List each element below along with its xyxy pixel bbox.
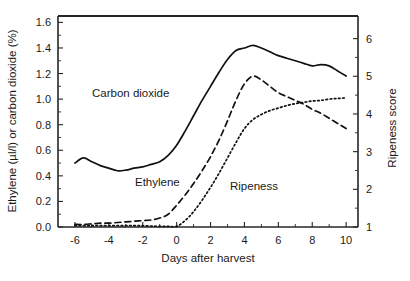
x-ticklabel: 6	[275, 234, 281, 246]
y-ticklabel-left: 1.6	[36, 16, 51, 28]
y-axis-right-ticks: 123456	[353, 33, 372, 233]
y-ticklabel-left: 0.2	[36, 195, 51, 207]
chart-figure: 0.00.20.40.60.81.01.21.41.6 123456 -6-4-…	[0, 0, 410, 281]
plot-frame	[58, 16, 358, 227]
y-ticklabel-right: 6	[366, 33, 372, 45]
x-axis-title: Days after harvest	[161, 252, 255, 264]
carbon-dioxide-ethylene-ripeness-line-chart: 0.00.20.40.60.81.01.21.41.6 123456 -6-4-…	[0, 0, 410, 281]
series-line-carbon-dioxide	[75, 45, 346, 170]
chart-series-group	[75, 45, 346, 226]
y-axis-left-title: Ethylene (µl/l) or carbon dioxide (%)	[6, 29, 18, 212]
y-ticklabel-left: 1.2	[36, 68, 51, 80]
y-ticklabel-right: 3	[366, 146, 372, 158]
y-ticklabel-right: 5	[366, 70, 372, 82]
series-line-ripeness	[75, 98, 346, 227]
x-ticklabel: 8	[309, 234, 315, 246]
y-axis-right-title: Ripeness score	[386, 88, 398, 167]
y-ticklabel-right: 4	[366, 108, 372, 120]
x-ticklabel: -6	[70, 234, 80, 246]
x-ticklabel: 10	[340, 234, 352, 246]
y-ticklabel-right: 2	[366, 183, 372, 195]
y-ticklabel-left: 1.0	[36, 93, 51, 105]
series-label-ethylene: Ethylene	[135, 176, 180, 188]
x-ticklabel: 4	[241, 234, 247, 246]
x-ticklabel: -2	[138, 234, 148, 246]
y-ticklabel-left: 0.0	[36, 221, 51, 233]
y-axis-left-ticks: 0.00.20.40.60.81.01.21.41.6	[36, 16, 63, 233]
x-ticklabel: 2	[207, 234, 213, 246]
series-label-ripeness: Ripeness	[230, 180, 278, 192]
y-ticklabel-left: 0.8	[36, 119, 51, 131]
series-label-carbon-dioxide: Carbon dioxide	[92, 87, 169, 99]
y-ticklabel-right: 1	[366, 221, 372, 233]
y-ticklabel-left: 0.6	[36, 144, 51, 156]
y-ticklabel-left: 0.4	[36, 170, 51, 182]
series-annotations: Carbon dioxideEthyleneRipeness	[92, 87, 278, 192]
y-ticklabel-left: 1.4	[36, 42, 51, 54]
x-ticklabel: -4	[104, 234, 114, 246]
x-ticklabel: 0	[174, 234, 180, 246]
